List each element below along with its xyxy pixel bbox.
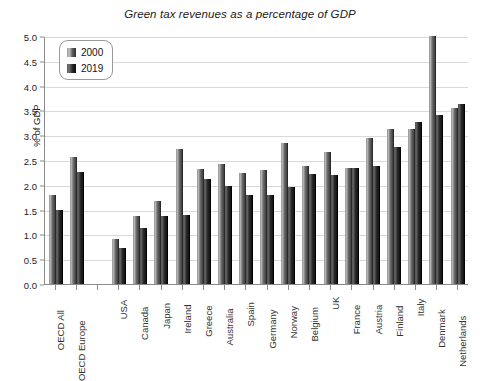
x-axis-label-text: Denmark [436, 309, 447, 348]
y-tick-label: 0.5 [24, 255, 37, 266]
bar-2019-germany[interactable] [267, 36, 274, 284]
x-axis-label: OECD Europe [65, 290, 86, 353]
bar-fill [429, 36, 436, 284]
bar-2000-ireland[interactable] [176, 36, 183, 284]
bar-2000-france[interactable] [345, 36, 352, 284]
bar-fill [154, 201, 161, 284]
bar-fill [218, 164, 225, 284]
bar-group [384, 37, 405, 284]
x-axis-label: Belgium [298, 290, 319, 353]
bar-fill [176, 149, 183, 284]
bar-fill [415, 122, 422, 284]
bar-fill [49, 195, 56, 284]
bar-fill [331, 175, 338, 284]
x-axis-label-text: Belgium [309, 307, 320, 341]
bar-group [193, 37, 214, 284]
bar-2000-usa[interactable] [112, 36, 119, 284]
x-axis-label: Canada [129, 290, 150, 353]
x-axis-labels: OECD AllOECD EuropeUSACanadaJapanIreland… [44, 290, 468, 353]
x-axis-label-text: OECD All [55, 310, 66, 350]
bar-fill [373, 166, 380, 284]
bar-2000-italy[interactable] [408, 36, 415, 284]
legend-label-2019: 2019 [81, 63, 103, 74]
legend-label-2000: 2000 [81, 47, 103, 58]
bar-2019-denmark[interactable] [436, 36, 443, 284]
bar-2000-oecd-all[interactable] [49, 36, 56, 284]
x-axis-label-text: Italy [415, 299, 426, 316]
bar-2019-norway[interactable] [288, 36, 295, 284]
x-axis-label: Finland [383, 290, 404, 353]
bar-fill [436, 115, 443, 284]
x-axis-label-text: Germany [267, 310, 278, 349]
y-tick-label: 5.0 [24, 32, 37, 43]
bar-2019-ireland[interactable] [183, 36, 190, 284]
bar-2000-denmark[interactable] [429, 36, 436, 284]
bar-fill [161, 216, 168, 284]
bar-fill [260, 170, 267, 284]
x-axis-label-text: Spain [245, 302, 256, 326]
bar-2000-japan[interactable] [154, 36, 161, 284]
x-axis-label: Denmark [426, 290, 447, 353]
x-axis-label: Australia [214, 290, 235, 353]
bar-2019-usa[interactable] [119, 36, 126, 284]
bar-2000-belgium[interactable] [302, 36, 309, 284]
bar-2019-finland[interactable] [394, 36, 401, 284]
bar-group [214, 37, 235, 284]
legend[interactable]: 2000 2019 [59, 40, 113, 80]
bar-fill [239, 173, 246, 284]
legend-item-2000[interactable]: 2000 [67, 45, 103, 59]
bar-fill [451, 108, 458, 284]
bar-2019-australia[interactable] [225, 36, 232, 284]
legend-item-2019[interactable]: 2019 [67, 61, 103, 75]
bar-2000-finland[interactable] [387, 36, 394, 284]
bar-2000-greece[interactable] [197, 36, 204, 284]
bar-fill [197, 169, 204, 284]
x-axis-label-text: Netherlands [457, 316, 468, 367]
legend-swatch-2019-icon [67, 64, 76, 73]
chart-title: Green tax revenues as a percentage of GD… [0, 8, 480, 20]
bar-2019-canada[interactable] [140, 36, 147, 284]
bar-fill [77, 172, 84, 284]
bar-fill [345, 168, 352, 284]
bar-2019-uk[interactable] [331, 36, 338, 284]
bar-fill [267, 195, 274, 284]
x-axis-label: Ireland [171, 290, 192, 353]
bar-group [426, 37, 447, 284]
bar-2000-netherlands[interactable] [451, 36, 458, 284]
bar-fill [458, 104, 465, 284]
x-axis-label: Spain [235, 290, 256, 353]
bar-2019-netherlands[interactable] [458, 36, 465, 284]
bar-2019-italy[interactable] [415, 36, 422, 284]
bar-fill [133, 216, 140, 284]
bar-group [405, 37, 426, 284]
bar-2000-uk[interactable] [324, 36, 331, 284]
bar-2000-spain[interactable] [239, 36, 246, 284]
bar-group [130, 37, 151, 284]
bar-2019-belgium[interactable] [309, 36, 316, 284]
x-axis-label-text: Ireland [182, 305, 193, 334]
bar-fill [281, 143, 288, 284]
bar-2000-norway[interactable] [281, 36, 288, 284]
y-axis-title: % of GDP [31, 86, 42, 166]
x-axis-label-text: Austria [373, 305, 384, 335]
y-tick-label: 2.0 [24, 180, 37, 191]
x-axis-label: Greece [192, 290, 213, 353]
bar-2000-austria[interactable] [366, 36, 373, 284]
bar-2019-spain[interactable] [246, 36, 253, 284]
x-axis-label: OECD All [44, 290, 65, 353]
bar-fill [324, 152, 331, 284]
bar-group [320, 37, 341, 284]
bar-2019-france[interactable] [352, 36, 359, 284]
bar-2019-greece[interactable] [204, 36, 211, 284]
x-axis-label-text: OECD Europe [76, 320, 87, 381]
x-axis-label-text: Canada [139, 307, 150, 340]
bar-fill [302, 166, 309, 284]
bar-2000-canada[interactable] [133, 36, 140, 284]
bar-2000-australia[interactable] [218, 36, 225, 284]
bar-2000-germany[interactable] [260, 36, 267, 284]
bar-2019-austria[interactable] [373, 36, 380, 284]
bar-2019-japan[interactable] [161, 36, 168, 284]
bar-group [362, 37, 383, 284]
x-axis-label-text: Greece [203, 306, 214, 337]
